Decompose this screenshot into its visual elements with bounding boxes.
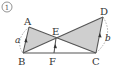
- svg-text:1: 1: [5, 4, 9, 12]
- problem-number: 1: [2, 2, 12, 12]
- label-F: F: [49, 56, 56, 67]
- arrow-icon: [54, 44, 57, 48]
- label-B: B: [18, 56, 25, 67]
- geometry-figure: 1 A B C D E F a b: [0, 0, 114, 70]
- label-D: D: [100, 6, 108, 17]
- label-a: a: [15, 35, 20, 45]
- label-A: A: [23, 16, 32, 27]
- label-b: b: [105, 33, 111, 43]
- label-E: E: [52, 26, 59, 37]
- label-C: C: [92, 56, 100, 67]
